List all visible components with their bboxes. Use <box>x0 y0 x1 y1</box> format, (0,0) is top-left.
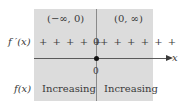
critical-point-dot <box>94 56 99 61</box>
derivative-zero-value: 0 <box>93 36 99 48</box>
interval-left-label: (−∞, 0) <box>47 13 84 25</box>
derivative-row-label: f ′(x) <box>8 36 31 48</box>
behavior-left: Increasing <box>42 83 96 95</box>
derivative-sign-right: + + + + + + <box>100 36 177 48</box>
interval-right-label: (0, ∞) <box>114 13 143 25</box>
x-axis-label: x <box>172 52 178 64</box>
critical-point-divider <box>96 9 97 101</box>
behavior-right: Increasing <box>104 83 158 95</box>
x-axis-line <box>34 58 169 59</box>
function-row-label: f(x) <box>14 83 31 95</box>
critical-point-tick-label: 0 <box>93 65 99 77</box>
